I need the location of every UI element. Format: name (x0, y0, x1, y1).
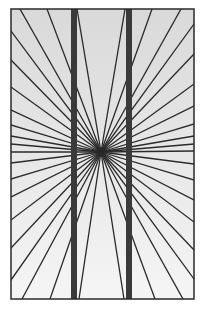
hering-illusion-figure (0, 0, 203, 317)
right-vertical-band (126, 9, 132, 299)
left-vertical-band (71, 9, 77, 299)
